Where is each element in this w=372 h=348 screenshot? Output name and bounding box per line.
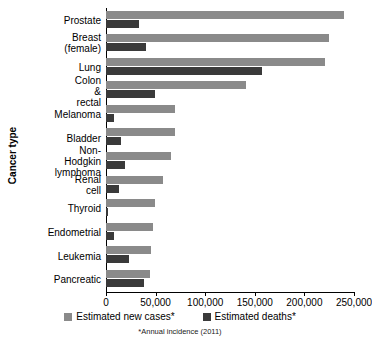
- x-axis-tick: [205, 292, 206, 296]
- category-label: Breast (female): [64, 32, 101, 54]
- chart-footnote: *Annual incidence (2011): [0, 327, 360, 336]
- bar-group: Endometrial: [106, 220, 354, 244]
- legend-label-new-cases: Estimated new cases*: [76, 311, 174, 322]
- bar-deaths: [106, 279, 144, 287]
- bar-new-cases: [106, 11, 344, 19]
- x-axis-tick-label: 0: [103, 297, 109, 308]
- bar-deaths: [106, 137, 121, 145]
- category-label: Colon & rectal: [75, 74, 101, 107]
- bar-deaths: [106, 208, 108, 216]
- legend-label-deaths: Estimated deaths*: [215, 311, 296, 322]
- x-axis-tick: [106, 292, 107, 296]
- category-label: Pancreatic: [54, 274, 101, 285]
- bar-new-cases: [106, 199, 155, 207]
- bar-new-cases: [106, 34, 329, 42]
- chart-legend: Estimated new cases* Estimated deaths*: [0, 311, 360, 322]
- category-label: Renal cell: [75, 174, 101, 196]
- category-label: Thyroid: [68, 203, 101, 214]
- bar-new-cases: [106, 176, 163, 184]
- bar-group: Non-Hodgkin lymphoma: [106, 150, 354, 174]
- x-axis-tick: [156, 292, 157, 296]
- plot-area: ProstateBreast (female)LungColon & recta…: [106, 8, 354, 291]
- bar-new-cases: [106, 152, 171, 160]
- bar-group: Pancreatic: [106, 267, 354, 291]
- bar-group: Melanoma: [106, 102, 354, 126]
- x-axis-tick: [304, 292, 305, 296]
- bar-deaths: [106, 90, 155, 98]
- bar-group: Breast (female): [106, 32, 354, 56]
- legend-swatch-new-cases: [64, 313, 72, 321]
- category-label: Leukemia: [58, 250, 101, 261]
- bar-group: Bladder: [106, 126, 354, 150]
- bar-group: Lung: [106, 55, 354, 79]
- legend-item-deaths: Estimated deaths*: [203, 311, 296, 322]
- category-label: Endometrial: [48, 227, 101, 238]
- bar-new-cases: [106, 81, 246, 89]
- bar-deaths: [106, 255, 129, 263]
- legend-item-new-cases: Estimated new cases*: [64, 311, 174, 322]
- x-axis-tick-label: 250,000: [336, 297, 372, 308]
- category-label: Bladder: [67, 132, 101, 143]
- x-axis-tick-label: 150,000: [237, 297, 273, 308]
- x-axis-tick: [354, 292, 355, 296]
- x-axis-tick-label: 200,000: [286, 297, 322, 308]
- bar-deaths: [106, 43, 146, 51]
- bar-new-cases: [106, 128, 175, 136]
- x-axis-tick: [255, 292, 256, 296]
- bar-group: Thyroid: [106, 197, 354, 221]
- bar-new-cases: [106, 246, 151, 254]
- bar-new-cases: [106, 223, 153, 231]
- category-label: Prostate: [64, 14, 101, 25]
- category-label: Melanoma: [54, 109, 101, 120]
- bar-new-cases: [106, 58, 325, 66]
- bar-new-cases: [106, 105, 175, 113]
- bar-deaths: [106, 67, 262, 75]
- bar-deaths: [106, 232, 114, 240]
- bar-deaths: [106, 161, 125, 169]
- bar-deaths: [106, 114, 114, 122]
- x-axis-tick-label: 50,000: [140, 297, 171, 308]
- bar-new-cases: [106, 270, 150, 278]
- y-axis-title: Cancer type: [7, 111, 18, 201]
- legend-swatch-deaths: [203, 313, 211, 321]
- x-axis-line: [106, 292, 354, 293]
- bar-group: Leukemia: [106, 244, 354, 268]
- bar-group: Prostate: [106, 8, 354, 32]
- bar-deaths: [106, 20, 139, 28]
- bar-group: Renal cell: [106, 173, 354, 197]
- bar-group: Colon & rectal: [106, 79, 354, 103]
- category-label: Non-Hodgkin lymphoma: [55, 145, 101, 178]
- x-axis-tick-label: 100,000: [187, 297, 223, 308]
- category-label: Lung: [79, 61, 101, 72]
- bar-deaths: [106, 185, 119, 193]
